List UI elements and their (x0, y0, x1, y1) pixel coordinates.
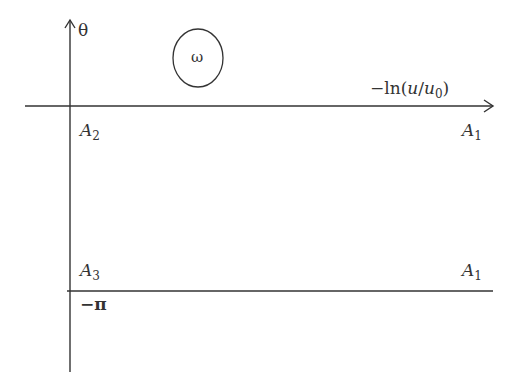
point-a2: A2 (80, 122, 100, 142)
horizontal-axis-label: −ln(u/u0) (370, 80, 449, 100)
theta-label: θ (78, 22, 88, 39)
label-suffix: ) (443, 78, 450, 98)
point-a1-top: A1 (462, 122, 482, 142)
point-a1-bottom: A1 (462, 262, 482, 282)
point-name: A (462, 260, 474, 280)
point-a3: A3 (80, 262, 100, 282)
point-name: A (462, 120, 474, 140)
omega-label: ω (191, 50, 203, 65)
label-prefix: −ln( (370, 78, 407, 98)
label-u0: u (424, 78, 435, 98)
label-u0-sub: 0 (435, 87, 443, 101)
minus-pi-label: −π (80, 296, 107, 313)
label-u: u (407, 78, 418, 98)
point-sub: 3 (92, 269, 100, 283)
diagram-lines (0, 0, 521, 389)
point-name: A (80, 260, 92, 280)
point-sub: 2 (92, 129, 100, 143)
point-name: A (80, 120, 92, 140)
diagram-canvas: θ ω −ln(u/u0) A2 A1 A3 A1 −π (0, 0, 521, 389)
point-sub: 1 (474, 269, 482, 283)
point-sub: 1 (474, 129, 482, 143)
